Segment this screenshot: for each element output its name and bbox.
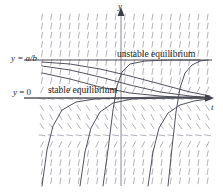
field-tick [161, 178, 162, 184]
field-tick [134, 169, 135, 175]
field-tick [170, 32, 171, 38]
field-tick [124, 23, 125, 29]
field-tick [78, 160, 79, 166]
field-tick [180, 178, 181, 184]
field-tick [88, 32, 89, 38]
field-tick [77, 124, 80, 129]
field-tick [124, 14, 125, 20]
solution-curves [42, 60, 210, 186]
field-tick [85, 98, 91, 99]
field-tick [87, 151, 88, 157]
field-tick [143, 160, 144, 166]
field-tick [57, 135, 63, 136]
field-tick [152, 41, 153, 47]
field-tick [134, 178, 135, 184]
field-tick [189, 23, 190, 29]
field-tick [206, 124, 209, 129]
field-tick [87, 78, 88, 84]
field-tick [180, 69, 181, 75]
field-tick [143, 151, 144, 157]
field-tick [133, 87, 136, 92]
field-tick [59, 106, 62, 111]
field-tick [152, 32, 153, 38]
field-tick [78, 50, 79, 56]
field-tick [76, 98, 82, 99]
field-tick [59, 124, 62, 129]
direction-field-figure: y t y = a/b y = 0 unstable equilibrium s… [0, 0, 223, 192]
field-tick [77, 142, 80, 147]
field-tick [179, 78, 180, 84]
field-tick [106, 169, 107, 175]
field-tick [60, 14, 61, 20]
field-tick [207, 50, 208, 56]
field-tick [85, 135, 91, 136]
field-tick [123, 106, 126, 111]
field-tick [160, 106, 163, 111]
field-tick [143, 32, 144, 38]
field-tick [198, 50, 199, 56]
field-tick [134, 69, 135, 75]
field-tick [133, 78, 134, 84]
field-tick [51, 160, 52, 166]
field-tick [78, 41, 79, 47]
field-tick [170, 78, 171, 84]
field-tick [134, 32, 135, 38]
field-tick [106, 178, 107, 184]
field-tick [179, 142, 182, 147]
field-tick [94, 135, 100, 136]
field-tick [188, 114, 191, 119]
field-tick [143, 169, 144, 175]
field-tick [115, 160, 116, 166]
field-tick [69, 23, 70, 29]
field-tick [197, 87, 200, 92]
field-tick [134, 160, 135, 166]
field-tick [50, 114, 53, 119]
field-tick [152, 169, 153, 175]
field-tick [78, 23, 79, 29]
field-tick [69, 14, 70, 20]
field-tick [115, 69, 116, 75]
field-tick [143, 178, 144, 184]
field-tick [159, 98, 165, 99]
field-tick [57, 98, 63, 99]
field-tick [115, 151, 116, 157]
field-tick [41, 78, 42, 84]
field-tick [197, 114, 200, 119]
field-tick [205, 135, 211, 136]
direction-field-ticks [39, 14, 211, 184]
field-tick [132, 124, 135, 129]
field-tick [114, 124, 117, 129]
field-tick [115, 14, 116, 20]
field-tick [152, 14, 153, 20]
field-tick [170, 41, 171, 47]
field-tick [39, 98, 45, 99]
field-tick [106, 41, 107, 47]
field-tick [152, 78, 153, 84]
field-tick [151, 124, 154, 129]
solution-curve [103, 60, 200, 186]
field-tick [78, 151, 79, 157]
field-tick [189, 178, 190, 184]
field-tick [106, 23, 107, 29]
field-tick [42, 32, 43, 38]
field-tick [86, 124, 89, 129]
field-tick [42, 41, 43, 47]
field-tick [88, 50, 89, 56]
field-tick [161, 23, 162, 29]
field-tick [105, 124, 108, 129]
field-tick [106, 14, 107, 20]
field-tick [115, 32, 116, 38]
field-tick [152, 23, 153, 29]
field-tick [51, 41, 52, 47]
field-tick [180, 23, 181, 29]
field-tick [142, 142, 145, 147]
field-tick [97, 160, 98, 166]
field-tick [131, 135, 137, 136]
field-tick [97, 14, 98, 20]
field-tick [88, 178, 89, 184]
field-tick [78, 32, 79, 38]
field-tick [50, 142, 53, 147]
field-tick [152, 178, 153, 184]
field-tick [88, 14, 89, 20]
field-tick [51, 78, 52, 84]
